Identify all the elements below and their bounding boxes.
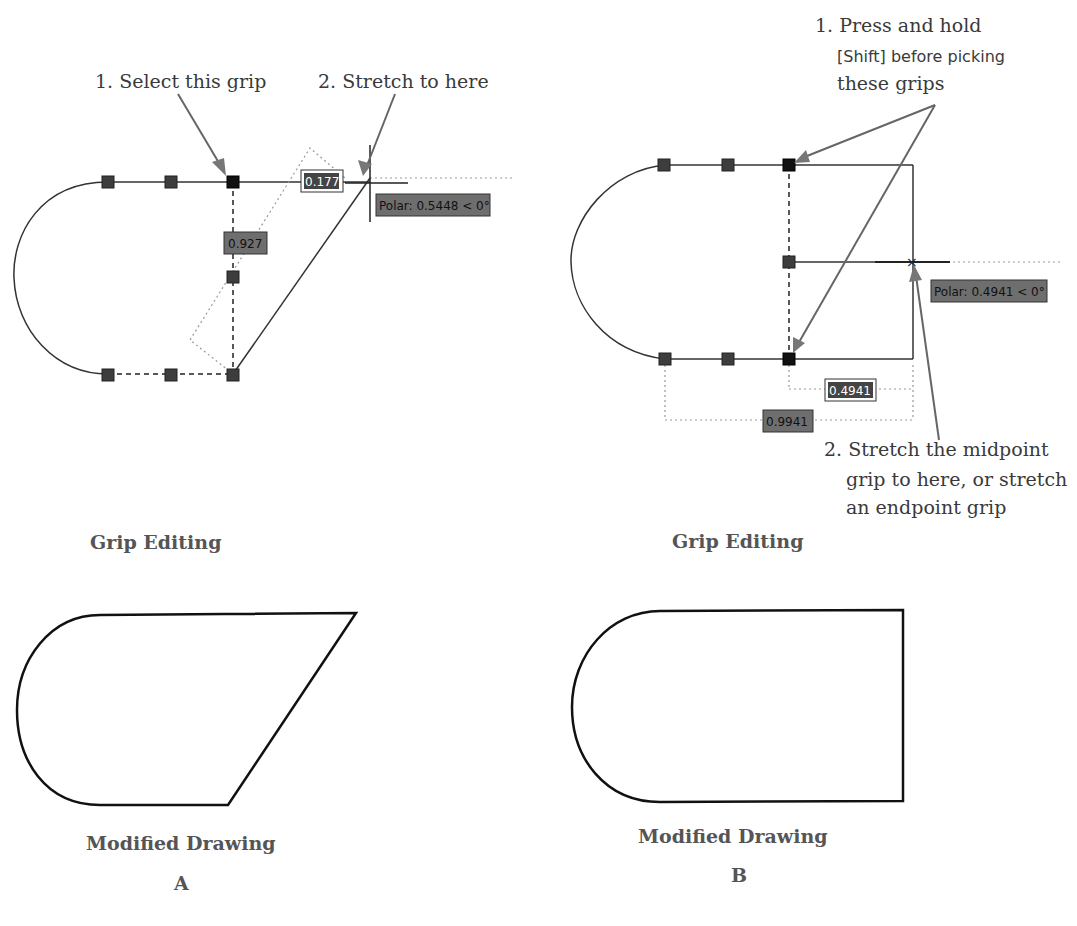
modified-shape-a [17,613,356,805]
tooltip-dim-outer: 0.9941 [763,410,813,432]
grip-top-mid[interactable] [722,159,734,171]
label-a: A [173,872,189,894]
tooltip-distance: 0.177 [301,170,343,192]
label-b: B [731,864,747,886]
panel-b-grip-editing: 1. Press and hold [Shift] before picking… [571,14,1067,552]
grip-top-mid[interactable] [165,176,177,188]
svg-text:0.9941: 0.9941 [766,415,808,429]
grip-bottom-right[interactable] [227,369,239,381]
modified-shape-b [572,610,903,802]
grip-bottom-mid[interactable] [165,369,177,381]
modified-drawing-a: Modified Drawing A [17,613,356,894]
callout-press-hold-line3: these grips [837,72,944,94]
grip-selected-bottom[interactable] [783,353,795,365]
arrowhead-icon [793,337,805,353]
svg-text:Polar: 0.4941 < 0°: Polar: 0.4941 < 0° [934,285,1045,299]
caption-grip-editing-b: Grip Editing [672,530,803,552]
callout-stretch-line3: an endpoint grip [846,496,1006,518]
panel-a-grip-editing: 1. Select this grip 2. Stretch to here 0… [14,70,512,553]
grip-top-left[interactable] [102,176,114,188]
shape-arc [14,182,108,374]
grip-selected-top[interactable] [783,159,795,171]
figure-canvas: 1. Select this grip 2. Stretch to here 0… [0,0,1077,926]
callout-stretch-line2: grip to here, or stretch [846,468,1067,490]
caption-modified-b: Modified Drawing [638,825,827,847]
svg-text:0.4941: 0.4941 [829,384,871,398]
stretched-line [233,178,370,374]
grip-bottom-left[interactable] [659,353,671,365]
svg-text:0.177: 0.177 [305,175,339,189]
caption-grip-editing-a: Grip Editing [90,531,221,553]
modified-drawing-b: Modified Drawing B [572,610,903,886]
cursor-x-icon: × [906,254,918,270]
arrowhead-icon [212,158,226,176]
caption-modified-a: Modified Drawing [86,832,275,854]
callout-select-grip: 1. Select this grip [95,70,266,92]
grip-bottom-mid[interactable] [722,353,734,365]
tooltip-polar: Polar: 0.4941 < 0° [931,280,1047,302]
svg-text:0.927: 0.927 [228,237,262,251]
shape-arc [571,165,665,359]
tooltip-length: 0.927 [224,232,267,254]
callout-stretch-to-here: 2. Stretch to here [318,70,489,92]
callout-press-hold-line1: 1. Press and hold [815,14,982,36]
grip-bottom-left[interactable] [102,369,114,381]
callout-stretch-line1: 2. Stretch the midpoint [824,438,1049,460]
arrow-to-target [366,94,395,168]
tooltip-dim-inner: 0.4941 [825,379,876,401]
arrow-to-grip [178,94,222,168]
arrow-to-bottom-grip [798,105,935,344]
callout-press-hold-line2: [Shift] before picking [837,47,1005,66]
grip-top-left[interactable] [658,159,670,171]
arrowhead-icon [794,150,810,163]
grip-right-mid[interactable] [227,271,239,283]
svg-text:Polar: 0.5448 < 0°: Polar: 0.5448 < 0° [379,199,490,213]
tooltip-polar: Polar: 0.5448 < 0° [376,194,490,216]
grip-midpoint[interactable] [783,256,795,268]
arrow-to-top-grip [802,105,935,158]
grip-selected[interactable] [227,176,239,188]
